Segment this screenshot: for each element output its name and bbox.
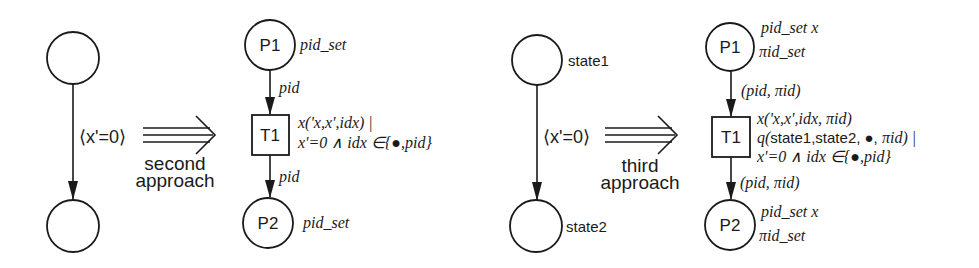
- transform-arrow: second approach: [135, 116, 215, 191]
- source-place-state2: [510, 200, 562, 252]
- place-p2-label: P2: [258, 214, 279, 233]
- transition-guard-line1: x('x,x',idx) |: [297, 114, 373, 132]
- place-p2-label: P2: [720, 216, 741, 235]
- target-net: P1 pid_set x πid_set (pid, πid) T1 x('x,…: [705, 19, 916, 250]
- arrowhead-icon: [265, 97, 275, 115]
- place-p1-type: pid_set: [299, 36, 347, 54]
- place-p2-type: pid_set: [302, 214, 350, 232]
- panel-third-approach: state1 state2 ⟨x'=0⟩ third approach P1 p…: [510, 19, 916, 252]
- transition-guard-line2: q(state1,state2, ●, πid) |: [757, 129, 916, 147]
- place-p1-label: P1: [720, 38, 741, 57]
- source-net: ⟨x'=0⟩: [47, 32, 126, 252]
- transition-guard-line2: x'=0 ∧ idx ∈{●,pid}: [297, 134, 432, 152]
- arc-in-label: pid: [278, 79, 300, 97]
- source-net: state1 state2 ⟨x'=0⟩: [510, 35, 609, 252]
- source-place-state1: [512, 35, 562, 85]
- arrowhead-icon: [265, 180, 275, 198]
- place-p2-type-line2: πid_set: [759, 227, 806, 244]
- arrowhead-icon: [532, 182, 542, 201]
- arc-out-label: pid: [278, 168, 300, 186]
- place-p1-label: P1: [260, 36, 281, 55]
- transition-guard-line3: x'=0 ∧ idx ∈{●,pid}: [756, 148, 891, 166]
- arrowhead-icon: [726, 99, 736, 117]
- target-net: P1 pid_set pid T1 x('x,x',idx) | x'=0 ∧ …: [243, 20, 432, 248]
- panel-second-approach: ⟨x'=0⟩ second approach P1 pid_set pid T1…: [47, 20, 432, 252]
- place-p2-type-line1: pid_set x: [760, 203, 818, 221]
- arc-out-label: (pid, πid): [740, 174, 800, 192]
- place-p1-type-line1: pid_set x: [760, 19, 818, 37]
- petri-net-diagram: ⟨x'=0⟩ second approach P1 pid_set pid T1…: [0, 0, 979, 268]
- transform-label-line2: approach: [135, 170, 214, 191]
- source-place-top: [47, 32, 99, 84]
- transform-label-line2: approach: [600, 172, 679, 193]
- transition-t1-label: T1: [721, 128, 741, 147]
- source-place-bottom: [47, 200, 99, 252]
- state1-label: state1: [568, 52, 609, 69]
- arc-guard: ⟨x'=0⟩: [543, 127, 590, 147]
- transition-t1-label: T1: [260, 126, 280, 145]
- arrowhead-icon: [68, 181, 78, 200]
- place-p1-type-line2: πid_set: [759, 43, 806, 60]
- arrowhead-icon: [726, 182, 736, 200]
- transform-arrow: third approach: [600, 116, 679, 193]
- arc-in-label: (pid, πid): [741, 82, 801, 100]
- state2-label: state2: [566, 218, 607, 235]
- transition-guard-line1: x('x,x',idx, πid): [756, 110, 852, 128]
- arc-guard: ⟨x'=0⟩: [79, 127, 126, 147]
